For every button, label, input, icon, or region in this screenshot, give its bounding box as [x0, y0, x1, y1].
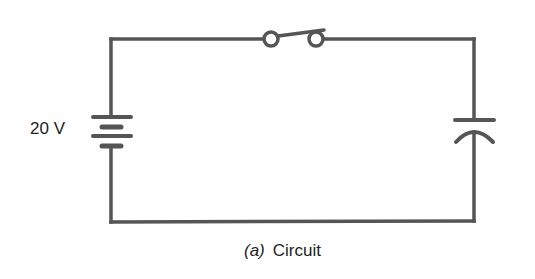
caption-tag: (a) — [244, 241, 265, 260]
battery-icon — [93, 117, 131, 146]
figure-caption: (a)Circuit — [244, 241, 321, 261]
battery-voltage-label: 20 V — [30, 119, 65, 139]
caption-text: Circuit — [273, 241, 321, 260]
circuit-diagram: 20 V (a)Circuit — [0, 0, 535, 279]
switch-icon — [264, 30, 324, 46]
wire-bottom — [111, 221, 474, 222]
circuit-schematic — [0, 0, 535, 279]
